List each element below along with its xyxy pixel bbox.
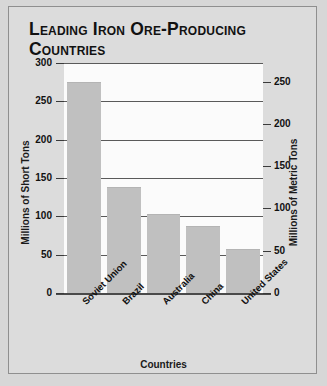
y-axis-right-title: Millions of Metric Tons bbox=[288, 123, 299, 263]
chart-title-line-1: Leading Iron Ore-Producing bbox=[29, 19, 304, 39]
y-axis-left-tick-label: 0 bbox=[18, 287, 52, 298]
chart-title-line-2: Countries bbox=[29, 39, 304, 59]
y-axis-left-tick bbox=[56, 140, 64, 141]
y-axis-left-tick bbox=[56, 101, 64, 102]
y-axis-right-tick bbox=[263, 251, 271, 252]
chart-title: Leading Iron Ore-Producing Countries bbox=[29, 19, 304, 59]
y-axis-left-title: Millions of Short Tons bbox=[20, 123, 31, 263]
y-axis-left-tick-label: 250 bbox=[18, 95, 52, 106]
x-axis-title: Countries bbox=[9, 359, 318, 370]
y-axis-left-tick bbox=[56, 293, 64, 294]
y-axis-left-tick bbox=[56, 216, 64, 217]
y-axis-right-tick bbox=[263, 166, 271, 167]
gridline bbox=[64, 63, 263, 64]
y-axis-right-tick bbox=[263, 82, 271, 83]
y-axis-right-tick bbox=[263, 293, 271, 294]
y-axis-left-tick bbox=[56, 255, 64, 256]
y-axis-left-tick bbox=[56, 178, 64, 179]
bar bbox=[67, 82, 101, 294]
y-axis-right-tick bbox=[263, 124, 271, 125]
y-axis-right-tick-label: 250 bbox=[274, 76, 308, 87]
y-axis-right-tick bbox=[263, 208, 271, 209]
y-axis-right-tick-label: 0 bbox=[274, 287, 308, 298]
y-axis-left-tick bbox=[56, 63, 64, 64]
y-axis-left-tick-label: 300 bbox=[18, 57, 52, 68]
chart-frame: Leading Iron Ore-Producing Countries 050… bbox=[8, 6, 317, 374]
chart-figure: Leading Iron Ore-Producing Countries 050… bbox=[0, 0, 327, 386]
